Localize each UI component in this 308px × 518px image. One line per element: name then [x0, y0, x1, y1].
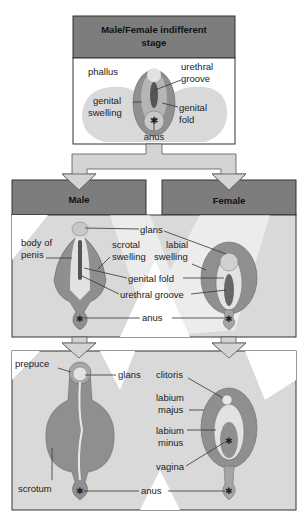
- label-anus-top: anus: [144, 131, 165, 142]
- label-anus-bottom: anus: [141, 485, 162, 496]
- anus-star-icon: ✱: [225, 486, 233, 496]
- genital-development-diagram: Male/Female indifferent stage ✱ phallus …: [0, 0, 308, 518]
- label-genital-fold-mid: genital fold: [128, 273, 174, 284]
- label-prepuce: prepuce: [15, 358, 49, 369]
- indifferent-stage-title-line2: stage: [142, 37, 167, 48]
- glans-shape-bottom: [73, 367, 87, 381]
- final-stage-panel: ✱ ✱ ✱ prepuce glans scrotum clitoris lab…: [12, 343, 296, 510]
- glans-shape: [72, 222, 88, 236]
- label-body-of-penis-2: penis: [21, 249, 44, 260]
- label-body-of-penis-1: body of: [21, 237, 53, 248]
- label-labium-minus-1: labium: [156, 425, 184, 436]
- label-scrotal-swelling-2: swelling: [112, 251, 146, 262]
- label-anus-mid: anus: [142, 312, 163, 323]
- label-clitoris: clitoris: [156, 369, 183, 380]
- label-glans-mid: glans: [140, 224, 163, 235]
- differentiation-stage-panel: Male Female ✱ ✱ glans body of penis scro…: [12, 174, 296, 337]
- urethral-groove-shape-male: [78, 240, 82, 280]
- label-genital-fold-2: fold: [179, 114, 194, 125]
- glans-shape-female: [220, 253, 238, 271]
- male-header-label: Male: [68, 194, 89, 205]
- label-labium-minus-2: minus: [158, 437, 184, 448]
- label-genital-swelling-1: genital: [93, 95, 121, 106]
- female-header-label: Female: [213, 195, 246, 206]
- anus-star-icon: ✱: [76, 314, 84, 324]
- phallus-tip-shape: [147, 68, 161, 82]
- clitoris-shape: [222, 395, 232, 405]
- label-urethral-groove-2: groove: [181, 73, 210, 84]
- label-urethral-groove-1: urethral: [181, 61, 213, 72]
- label-labial-swelling-2: swelling: [154, 251, 188, 262]
- indifferent-stage-panel: Male/Female indifferent stage ✱ phallus …: [73, 16, 235, 144]
- label-genital-swelling-2: swelling: [88, 107, 122, 118]
- indifferent-stage-title-line1: Male/Female indifferent: [101, 24, 207, 35]
- label-genital-fold-1: genital: [179, 102, 207, 113]
- label-vagina: vagina: [156, 461, 185, 472]
- vaginal-opening-star-icon: ✱: [225, 436, 233, 446]
- label-glans-bottom: glans: [118, 369, 141, 380]
- anus-star-icon: ✱: [76, 486, 84, 496]
- label-phallus: phallus: [88, 66, 118, 77]
- label-labium-majus-1: labium: [156, 392, 184, 403]
- label-scrotal-swelling-1: scrotal: [112, 239, 140, 250]
- label-scrotum: scrotum: [18, 483, 52, 494]
- label-labium-majus-2: majus: [158, 404, 184, 415]
- label-urethral-groove-mid: urethral groove: [120, 289, 184, 300]
- label-labial-swelling-1: labial: [166, 239, 188, 250]
- anus-star-icon: ✱: [225, 314, 233, 324]
- urethral-groove-shape: [150, 82, 158, 108]
